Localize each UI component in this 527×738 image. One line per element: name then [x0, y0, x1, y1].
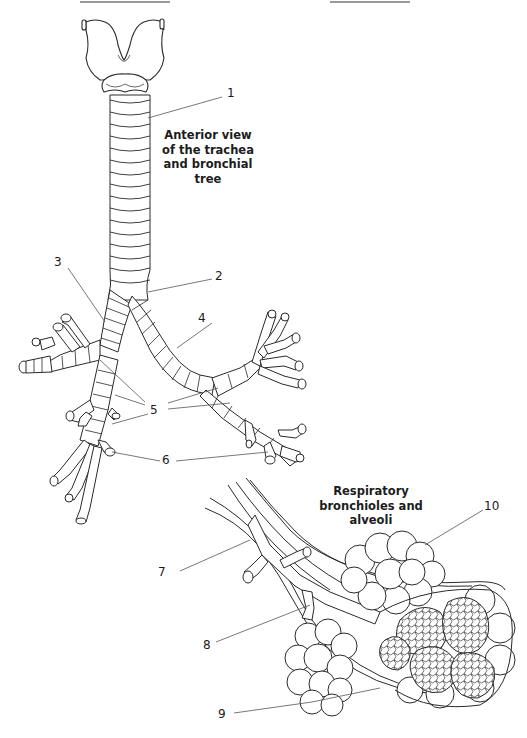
- label-8: 8: [203, 639, 211, 651]
- label-6: 6: [162, 454, 170, 466]
- left-main-bronchus: [128, 296, 306, 466]
- alveolar-sac-upper: [341, 531, 445, 614]
- caption-trachea-line-4: tree: [160, 172, 256, 187]
- leader-6b: [176, 452, 268, 461]
- right-main-bronchus: [19, 290, 132, 524]
- leader-5b: [115, 395, 145, 405]
- leader-4: [177, 323, 212, 348]
- anatomy-diagram: 1 2 3 4 5 6 7 8 9 10 Anterior view of th…: [0, 0, 527, 738]
- caption-trachea-line-1: Anterior view: [160, 128, 256, 143]
- caption-alveoli-line-1: Respiratory: [315, 484, 427, 499]
- trachea: [108, 95, 150, 300]
- label-7: 7: [158, 566, 166, 578]
- label-9: 9: [218, 708, 226, 720]
- alveolar-sac-lower: [285, 619, 357, 716]
- leader-2: [148, 279, 212, 292]
- label-3: 3: [54, 256, 62, 268]
- cropped-text-remnant: [80, 1, 410, 3]
- leader-3: [68, 268, 105, 322]
- caption-alveoli-line-3: alveoli: [315, 513, 427, 528]
- leader-7: [180, 540, 250, 571]
- caption-trachea-line-3: and bronchial: [160, 157, 256, 172]
- caption-trachea: Anterior view of the trachea and bronchi…: [160, 128, 256, 186]
- label-10: 10: [484, 500, 499, 512]
- caption-alveoli: Respiratory bronchioles and alveoli: [315, 484, 427, 528]
- leader-6a: [112, 452, 160, 461]
- label-1: 1: [227, 87, 235, 99]
- label-5: 5: [150, 404, 158, 416]
- caption-trachea-line-2: of the trachea: [160, 143, 256, 158]
- leader-10: [425, 510, 483, 545]
- leader-9: [234, 702, 312, 713]
- leader-1: [148, 97, 222, 118]
- label-2: 2: [215, 270, 223, 282]
- larynx: [82, 19, 164, 92]
- label-4: 4: [198, 312, 206, 324]
- respiratory-illustration: [0, 0, 527, 738]
- caption-alveoli-line-2: bronchioles and: [315, 499, 427, 514]
